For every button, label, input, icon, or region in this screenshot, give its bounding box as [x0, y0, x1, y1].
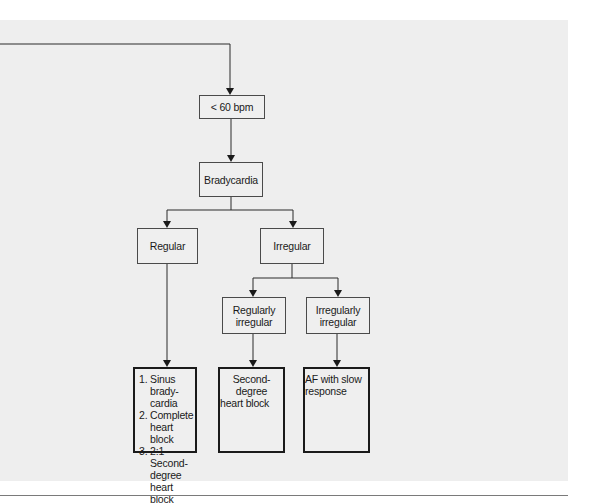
- outcome-af-line2: response: [305, 385, 347, 397]
- outcome-second-degree-line1: Second-degree: [220, 373, 283, 397]
- outcome-item-sinus-bradycardia: 1. Sinus brady-cardia: [139, 373, 195, 409]
- node-irregularly-irregular: Irregularly irregular: [306, 297, 370, 334]
- bottom-divider-rule: [0, 495, 568, 496]
- node-rate-under-60: < 60 bpm: [199, 95, 265, 119]
- node-bradycardia-label: Bradycardia: [204, 174, 258, 186]
- node-irregular-label: Irregular: [273, 240, 310, 252]
- node-irregularly-irregular-line2: irregular: [320, 316, 357, 328]
- node-irregular: Irregular: [260, 228, 324, 264]
- node-regular-label: Regular: [150, 240, 185, 252]
- node-bradycardia: Bradycardia: [199, 162, 263, 197]
- outcome-af-slow-response: AF with slow response: [303, 367, 370, 453]
- node-regularly-irregular: Regularly irregular: [222, 297, 286, 334]
- outcome-second-degree-heart-block: Second-degree heart block: [218, 367, 285, 453]
- outcome-regular-list: 1. Sinus brady-cardia 2. Complete heart …: [139, 373, 195, 503]
- node-rate-label: < 60 bpm: [211, 101, 253, 113]
- outcome-second-degree-line2: heart block: [220, 397, 269, 409]
- node-regular: Regular: [137, 228, 198, 264]
- outcome-item-complete-heart-block: 2. Complete heart block: [139, 409, 195, 445]
- node-regularly-irregular-line2: irregular: [236, 316, 273, 328]
- outcome-af-line1: AF with slow: [305, 373, 362, 385]
- outcome-regular: 1. Sinus brady-cardia 2. Complete heart …: [133, 367, 197, 453]
- node-regularly-irregular-line1: Regularly: [233, 304, 276, 316]
- node-irregularly-irregular-line1: Irregularly: [316, 304, 360, 316]
